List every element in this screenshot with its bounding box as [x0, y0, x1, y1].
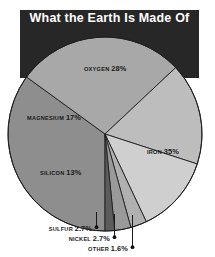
chart-title: What the Earth Is Made Of: [20, 11, 199, 25]
iron-label-name: IRON: [147, 149, 162, 155]
sulfur-label-value: 2.7%: [75, 224, 92, 233]
pie-chart-graphic: [0, 0, 215, 257]
other-label-name: OTHER: [88, 246, 109, 252]
sulfur-label-name: SULFUR: [49, 226, 73, 232]
magnesium-label-name: MAGNESIUM: [27, 115, 64, 121]
silicon-label-value: 13%: [66, 168, 81, 177]
nickel-label-name: NICKEL: [69, 236, 91, 242]
nickel-label-value: 2.7%: [93, 234, 110, 243]
silicon-label-name: SILICON: [40, 170, 64, 176]
iron-label-value: 35%: [164, 147, 179, 156]
magnesium-label-value: 17%: [66, 113, 81, 122]
nickel-callout-label: NICKEL 2.7%: [0, 234, 110, 243]
oxygen-label-name: OXYGEN: [84, 66, 109, 72]
oxygen-slice-label: OXYGEN 28%: [84, 64, 126, 73]
silicon-slice-label: SILICON 13%: [40, 168, 81, 177]
other-callout-label: OTHER 1.6%: [0, 244, 128, 253]
sulfur-callout-label: SULFUR 2.7%: [0, 224, 92, 233]
iron-slice-label: IRON 35%: [147, 147, 179, 156]
oxygen-label-value: 28%: [111, 64, 126, 73]
magnesium-slice-label: MAGNESIUM 17%: [27, 113, 81, 122]
other-label-value: 1.6%: [111, 244, 128, 253]
pie-chart-figure: What the Earth Is Made Of OXYGEN 28% MAG…: [0, 0, 215, 257]
